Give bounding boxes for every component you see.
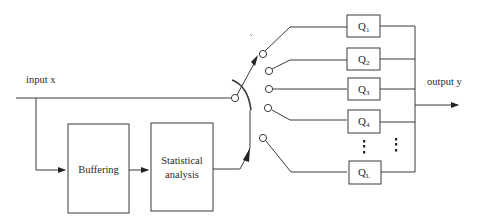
statistical-label-line1: Statistical: [161, 155, 202, 166]
statistical-label-line2: analysis: [165, 169, 199, 180]
buffering-label: Buffering: [78, 164, 119, 175]
branch-to-buffering: [36, 98, 65, 170]
wire-q1: [265, 27, 347, 51]
switch-node-L: [259, 134, 266, 141]
input-label: input x: [26, 74, 56, 85]
quantizer-q1: Q1: [347, 15, 380, 37]
statistical-analysis-block: [151, 123, 213, 211]
switch-node-2: [265, 67, 272, 74]
switch-arm-arrowhead: [251, 55, 258, 66]
wire-q2: [272, 60, 347, 69]
output-label: output y: [427, 76, 462, 87]
control-output-line: [213, 158, 246, 169]
quantizer-q2: Q2: [347, 48, 380, 70]
quantizer-q4: Q4: [348, 110, 380, 133]
switch-node-4: [264, 104, 271, 111]
ellipsis-quantizers: [363, 140, 365, 154]
switch-node-3: [265, 85, 272, 92]
quantizer-q3: Q3: [348, 78, 380, 100]
ellipsis-outputs: [395, 138, 397, 152]
quantizer-qL: QL: [349, 161, 381, 184]
switch-node-1: [259, 50, 266, 57]
quantizer-selection-diagram: input x Buffering Statistical analysis Q…: [0, 0, 477, 223]
switch-arm: [237, 60, 256, 95]
switch-input-node: [231, 94, 238, 101]
wire-q4: [272, 110, 347, 120]
control-arrow-head: [243, 148, 250, 162]
stray-mark: [250, 34, 252, 36]
wire-qL: [266, 141, 347, 172]
